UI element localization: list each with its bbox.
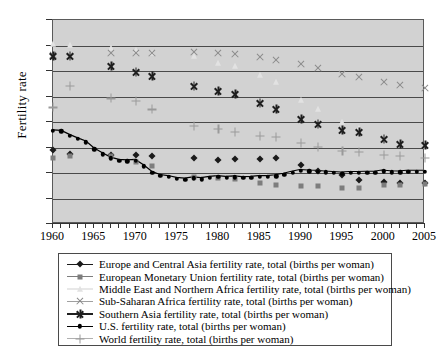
x-tick-mark	[242, 224, 243, 228]
x-tick-mark	[424, 224, 425, 228]
legend-item[interactable]: European Monetary Union fertility rate, …	[65, 270, 391, 282]
x-tick-mark	[283, 224, 284, 228]
legend-item-label: Sub-Saharan Africa fertility rate, total…	[95, 295, 353, 307]
x-tick-label: 1975	[154, 229, 198, 244]
x-tick-label: 1970	[113, 229, 157, 244]
legend-item-label: European Monetary Union fertility rate, …	[95, 271, 384, 283]
legend-item-label: World fertility rate, total (births per …	[95, 333, 293, 345]
x-tick-mark	[350, 224, 351, 228]
x-tick-mark	[250, 224, 251, 228]
x-axis-line	[52, 223, 425, 224]
x-tick-mark	[193, 224, 194, 228]
legend-item-label: Middle East and Northern Africa fertilit…	[95, 283, 411, 295]
x-tick-mark	[325, 224, 326, 228]
x-tick-label: 1960	[30, 229, 74, 244]
plot-region	[52, 19, 424, 223]
x-tick-mark	[209, 224, 210, 228]
legend-plus-icon	[65, 333, 95, 345]
legend-item-label: U.S. fertility rate, total (births per w…	[95, 320, 286, 332]
x-tick-mark	[168, 224, 169, 228]
x-tick-mark	[300, 224, 301, 228]
x-tick-mark	[176, 224, 177, 228]
x-tick-mark	[69, 224, 70, 228]
x-tick-mark	[374, 224, 375, 228]
x-tick-mark	[77, 224, 78, 228]
legend-triangle-icon	[65, 283, 95, 295]
x-tick-label: 1995	[319, 229, 363, 244]
x-tick-mark	[308, 224, 309, 228]
x-tick-mark	[102, 224, 103, 228]
legend-item[interactable]: U.S. fertility rate, total (births per w…	[65, 320, 391, 332]
legend-item-label: Europe and Central Asia fertility rate, …	[95, 258, 374, 270]
x-tick-label: 1985	[237, 229, 281, 244]
x-tick-mark	[52, 224, 53, 228]
x-tick-mark	[85, 224, 86, 228]
fertility-rate-chart-page: Fertility rate 012345678 196019651970197…	[0, 0, 444, 363]
x-tick-mark	[416, 224, 417, 228]
x-tick-mark	[159, 224, 160, 228]
x-tick-mark	[383, 224, 384, 228]
legend-dot-icon	[65, 320, 95, 332]
chart-area: Fertility rate 012345678 196019651970197…	[0, 0, 444, 250]
chart-legend: Europe and Central Asia fertility rate, …	[58, 253, 392, 346]
x-tick-mark	[275, 224, 276, 228]
x-tick-mark	[118, 224, 119, 228]
x-tick-mark	[126, 224, 127, 228]
legend-square-icon	[65, 271, 95, 283]
x-tick-mark	[226, 224, 227, 228]
x-tick-mark	[267, 224, 268, 228]
legend-item[interactable]: Europe and Central Asia fertility rate, …	[65, 258, 391, 270]
legend-item-label: Southern Asia fertility rate, total (bir…	[95, 308, 328, 320]
x-tick-mark	[93, 224, 94, 228]
legend-item[interactable]: Middle East and Northern Africa fertilit…	[65, 283, 391, 295]
x-tick-mark	[60, 224, 61, 228]
x-tick-mark	[407, 224, 408, 228]
legend-x-icon	[65, 295, 95, 307]
x-tick-mark	[333, 224, 334, 228]
x-tick-mark	[135, 224, 136, 228]
x-tick-mark	[292, 224, 293, 228]
x-tick-mark	[358, 224, 359, 228]
x-tick-mark	[184, 224, 185, 228]
x-tick-mark	[259, 224, 260, 228]
legend-item[interactable]: Southern Asia fertility rate, total (bir…	[65, 308, 391, 320]
legend-diamond-icon	[65, 258, 95, 270]
x-tick-mark	[341, 224, 342, 228]
legend-item[interactable]: Sub-Saharan Africa fertility rate, total…	[65, 295, 391, 307]
x-tick-mark	[201, 224, 202, 228]
x-tick-mark	[143, 224, 144, 228]
x-tick-mark	[151, 224, 152, 228]
x-tick-mark	[217, 224, 218, 228]
x-tick-label: 2005	[402, 229, 444, 244]
x-tick-mark	[317, 224, 318, 228]
x-tick-mark	[234, 224, 235, 228]
x-tick-label: 1990	[278, 229, 322, 244]
y-axis-title: Fertility rate	[14, 30, 30, 180]
x-tick-label: 2000	[361, 229, 405, 244]
legend-item[interactable]: World fertility rate, total (births per …	[65, 332, 391, 344]
x-tick-mark	[391, 224, 392, 228]
x-tick-mark	[366, 224, 367, 228]
legend-star-icon	[65, 308, 95, 320]
x-tick-label: 1980	[195, 229, 239, 244]
x-tick-mark	[399, 224, 400, 228]
x-tick-label: 1965	[71, 229, 115, 244]
x-tick-mark	[110, 224, 111, 228]
